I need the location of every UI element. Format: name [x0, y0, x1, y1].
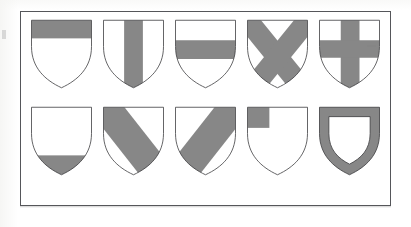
shield-bordure: [313, 106, 385, 193]
shield-bend: [98, 106, 170, 193]
shield-bordure-drawing: [318, 106, 381, 176]
charge-canton: [246, 106, 269, 128]
charge-chief: [31, 19, 94, 38]
shield-saltire-drawing: [246, 19, 309, 89]
shield-fess: [170, 19, 242, 106]
shield-canton: [241, 106, 313, 193]
shield-bend-sinister-drawing: [174, 106, 237, 176]
shield-fess-drawing: [174, 19, 237, 89]
shield-cross: [313, 19, 385, 106]
charge-fess: [174, 40, 237, 59]
shield-saltire: [241, 19, 313, 106]
scan-edge-mark-artifact: [2, 30, 6, 39]
shield-chief: [26, 19, 98, 106]
shield-base-drawing: [30, 106, 93, 176]
shield-canton-drawing: [246, 106, 309, 176]
shield-bend-drawing: [102, 106, 165, 176]
shield-chief-drawing: [30, 19, 93, 89]
shield-bend-sinister: [170, 106, 242, 193]
frame-bottom-shadow: [20, 206, 391, 208]
shield-cross-drawing: [318, 19, 381, 89]
charge-pale: [124, 19, 143, 89]
heraldic-ordinaries-figure: [0, 0, 411, 227]
shield-grid: [20, 11, 391, 206]
shield-pale-drawing: [102, 19, 165, 89]
shield-base: [26, 106, 98, 193]
shield-pale: [98, 19, 170, 106]
